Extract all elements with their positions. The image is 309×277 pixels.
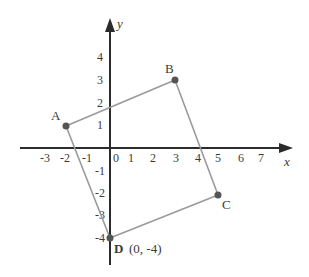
vertex-d-label: D <box>114 241 123 256</box>
vertex-a-label: A <box>51 108 61 123</box>
x-tick-label: 6 <box>238 151 244 165</box>
y-tick-label: 2 <box>97 96 103 110</box>
y-axis: y <box>105 16 123 265</box>
edge-cd <box>110 195 218 238</box>
x-tick-labels: -3 -2 -1 0 1 2 3 4 5 6 7 <box>40 151 264 165</box>
x-tick-label: 3 <box>173 151 179 165</box>
x-tick-label: 4 <box>195 151 201 165</box>
y-axis-arrow-icon <box>105 18 115 32</box>
vertex-b-label: B <box>165 61 174 76</box>
coordinate-diagram: x y -3 -2 -1 0 1 2 3 4 5 6 7 4 3 2 1 <box>0 0 309 277</box>
y-tick-label: 4 <box>97 50 103 64</box>
edge-ab <box>66 80 175 126</box>
x-tick-label: 1 <box>128 151 134 165</box>
y-tick-label: -1 <box>95 164 105 178</box>
x-tick-label: 2 <box>150 151 156 165</box>
y-axis-label: y <box>115 16 123 31</box>
y-tick-label: 3 <box>97 73 103 87</box>
y-tick-label: 1 <box>97 118 103 132</box>
x-tick-label: 0 <box>113 151 119 165</box>
x-axis-label: x <box>283 154 290 169</box>
y-tick-label: -4 <box>95 231 105 245</box>
x-axis-arrow-icon <box>279 143 293 153</box>
vertex-d-coordinates: (0, -4) <box>129 241 162 256</box>
vertex-d-dot <box>107 235 114 242</box>
vertex-a-dot <box>63 123 70 130</box>
vertex-c-dot <box>215 192 222 199</box>
x-tick-label: -3 <box>40 151 50 165</box>
x-tick-label: -1 <box>82 151 92 165</box>
edge-bc <box>175 80 218 195</box>
edge-da <box>66 126 110 238</box>
vertex-c-label: C <box>222 197 231 212</box>
x-tick-label: -2 <box>60 151 70 165</box>
y-tick-label: -2 <box>95 186 105 200</box>
x-tick-label: 7 <box>258 151 264 165</box>
vertex-b-dot <box>172 77 179 84</box>
x-tick-label: 5 <box>215 151 221 165</box>
